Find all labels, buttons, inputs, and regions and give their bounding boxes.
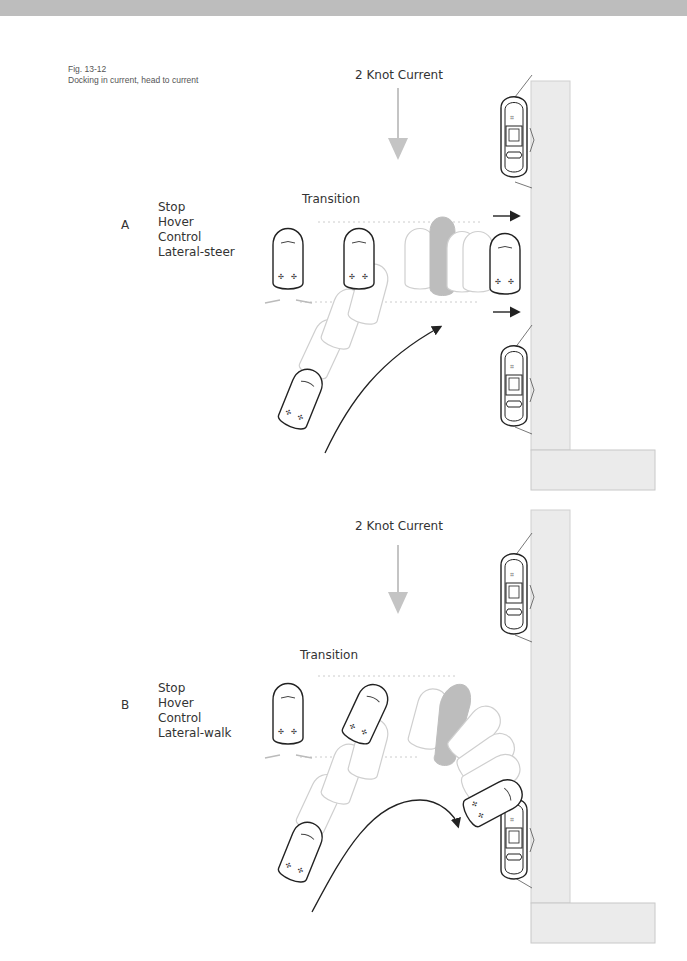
steps-list-a: Stop Hover Control Lateral-steer — [158, 200, 235, 260]
step-control: Control — [158, 711, 232, 726]
boat-hover-a — [344, 229, 374, 290]
docking-diagram: ✣ ✣ ⌗ — [0, 0, 687, 961]
current-label-a: 2 Knot Current — [355, 68, 443, 82]
step-lateral: Lateral-walk — [158, 726, 232, 741]
panel-letter-b: B — [121, 698, 129, 712]
boat-approach-a — [276, 365, 326, 432]
step-stop: Stop — [158, 200, 235, 215]
transition-label-b: Transition — [300, 648, 358, 662]
dock-b — [531, 510, 655, 943]
step-hover: Hover — [158, 215, 235, 230]
current-arrow-b — [388, 545, 408, 614]
dock-a — [531, 81, 655, 490]
boat-stop-b — [273, 684, 303, 745]
moored-boat-a-bottom — [501, 325, 534, 434]
boat-approach-b — [276, 818, 326, 885]
step-hover: Hover — [158, 696, 232, 711]
current-arrow-a — [388, 88, 408, 160]
panel-letter-a: A — [121, 218, 129, 232]
transition-label-a: Transition — [302, 192, 360, 206]
approach-arrow-b — [312, 800, 458, 912]
step-stop: Stop — [158, 681, 232, 696]
current-label-b: 2 Knot Current — [355, 519, 443, 533]
step-control: Control — [158, 230, 235, 245]
moored-boat-b-top — [501, 533, 534, 642]
boat-docked-a — [490, 234, 520, 295]
boat-stop-a — [273, 229, 303, 290]
moored-boat-a-top — [501, 75, 534, 188]
steps-list-b: Stop Hover Control Lateral-walk — [158, 681, 232, 741]
step-lateral: Lateral-steer — [158, 245, 235, 260]
